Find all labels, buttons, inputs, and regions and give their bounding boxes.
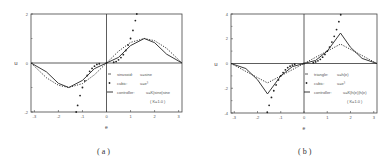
y-tick-label: -2 [224,86,228,91]
data-marker [317,60,319,62]
legend-gain-note: ( K=1.0 ) [150,99,166,104]
y-tick-label: 2 [226,36,229,41]
data-marker [84,80,86,82]
data-marker [338,21,340,23]
x-tick-label: -3 [232,115,236,120]
x-tick-label: -2 [256,115,260,120]
legend-name: controller: [314,90,332,95]
data-marker [75,111,77,113]
data-marker [118,59,120,61]
legend-formula: u=h(e) [337,72,349,77]
legend-dot-icon [109,82,111,84]
y-tick-label: 2 [26,12,29,17]
data-marker [319,58,321,60]
data-marker [134,20,136,22]
data-marker [136,13,138,15]
data-marker [127,44,129,46]
data-marker [294,63,296,65]
data-marker [285,69,287,71]
y-axis-label: u [214,61,217,67]
data-marker [289,65,291,67]
figure: -3-2-10123-202eusinusoid:u=sinecubic:u=e… [0,0,390,165]
x-tick-label: -1 [81,114,85,119]
data-marker [336,29,338,31]
legend-dot-icon [306,82,308,84]
legend-formula: u=sine [140,72,153,77]
data-marker [333,35,335,37]
data-marker [315,61,317,63]
data-marker [79,95,81,97]
legend-name: sinusoid: [117,72,133,77]
x-tick-label: 0 [303,115,306,120]
x-tick-label: 2 [349,115,352,120]
x-axis-label: e [303,125,306,131]
legend-formula: u=e³ [140,81,149,86]
data-marker [271,97,273,99]
data-marker [312,62,314,64]
data-marker [113,61,115,63]
legend-formula: u=e³ [337,81,346,86]
caption-b: ( b ) [298,147,311,156]
x-axis-label: e [105,124,108,130]
legend-formula: u=K|h(e)|h(e) [343,90,367,95]
data-marker [331,41,333,43]
data-marker [340,14,342,16]
caption-a: ( a ) [97,147,110,156]
x-tick-label: 3 [178,114,181,119]
legend-name: controller: [117,90,135,95]
legend-gain-note: ( K=1.0 ) [347,99,363,104]
data-marker [98,63,100,65]
x-tick-label: -2 [57,114,61,119]
x-tick-label: 0 [105,114,108,119]
y-tick-label: -4 [224,111,228,116]
x-tick-label: -1 [279,115,283,120]
data-marker [120,57,122,59]
x-tick-label: 1 [129,114,132,119]
data-marker [122,54,124,56]
data-marker [322,56,324,58]
data-marker [130,38,132,40]
data-marker [275,84,277,86]
data-marker [115,61,117,63]
data-marker [273,90,275,92]
x-tick-label: 1 [326,115,329,120]
data-marker [89,70,91,72]
y-tick-label: 0 [26,61,29,66]
x-tick-label: 3 [373,115,376,120]
legend-name: cubic: [117,81,127,86]
data-marker [91,67,93,69]
y-tick-label: -2 [24,110,28,115]
data-marker [266,111,268,113]
legend-name: triangle: [314,72,328,77]
x-tick-label: -3 [33,114,37,119]
y-tick-label: 0 [226,61,229,66]
legend-formula: u=K|sine|sine [146,90,171,95]
data-marker [268,104,270,106]
y-tick-label: 4 [226,12,229,17]
data-marker [82,87,84,89]
data-marker [287,67,289,69]
legend-name: cubic: [314,81,324,86]
data-marker [291,64,293,66]
data-marker [132,30,134,32]
data-marker [94,65,96,67]
data-marker [77,104,79,106]
y-axis-label: u [14,60,17,66]
data-marker [96,64,98,66]
x-tick-label: 2 [153,114,156,119]
